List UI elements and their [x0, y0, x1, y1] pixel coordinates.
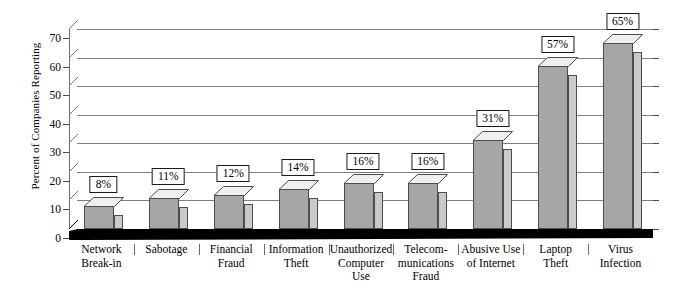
bar-front-face — [279, 189, 309, 229]
category-labels: NetworkBreak-inSabotageFinancialFraudInf… — [69, 243, 653, 291]
gridline-depth-edge-30 — [69, 134, 78, 143]
category-label-line: Virus — [588, 243, 653, 257]
bar-top-face — [408, 174, 438, 183]
y-tick-40 — [63, 124, 69, 125]
bar-front-face — [149, 198, 179, 229]
y-tick-right-40 — [653, 115, 659, 116]
category-label-line: of Internet — [458, 257, 523, 271]
category-label-line: Break-in — [69, 257, 134, 271]
category-label: VirusInfection — [588, 243, 653, 270]
category-label-line: Fraud — [393, 270, 458, 284]
bar-side-face — [438, 192, 447, 229]
category-label-line: Fraud — [199, 257, 264, 271]
bar-front-face — [344, 183, 374, 229]
gridline-depth-edge-60 — [69, 49, 78, 58]
y-tick-right-0 — [653, 229, 659, 230]
y-tick-right-70 — [653, 29, 659, 30]
category-label: Abusive Useof Internet — [458, 243, 523, 270]
bar-chart: Percent of Companies Reporting 706050403… — [0, 0, 683, 292]
gridline-depth-edge-20 — [69, 163, 78, 172]
y-tick-label-70: 70 — [50, 32, 62, 44]
category-label: FinancialFraud — [199, 243, 264, 270]
bar-value-label: 65% — [606, 13, 639, 30]
y-tick-50 — [63, 95, 69, 96]
bar-column — [84, 206, 114, 229]
bar-value-label: 14% — [282, 159, 315, 176]
bar-top-face — [84, 197, 114, 206]
category-label: LaptopTheft — [523, 243, 588, 270]
gridline-depth-edge-70 — [69, 20, 78, 29]
bar-side-face — [309, 198, 318, 229]
bar-value-label: 16% — [411, 153, 444, 170]
bar-front-face — [408, 183, 438, 229]
category-separator — [199, 244, 200, 255]
bar-column — [344, 183, 374, 229]
y-tick-label-60: 60 — [50, 61, 62, 73]
category-label-line: Laptop — [523, 243, 588, 257]
y-tick-10 — [63, 209, 69, 210]
y-tick-20 — [63, 181, 69, 182]
bar-side-face — [374, 192, 383, 229]
category-separator — [458, 244, 459, 255]
category-label-line: Sabotage — [134, 243, 199, 257]
category-label-line: Abusive Use — [458, 243, 523, 257]
bar-column — [149, 198, 179, 229]
bar-value-label: 57% — [541, 36, 574, 53]
bar-top-face — [473, 131, 503, 140]
category-label-line: Computer — [329, 257, 394, 271]
y-tick-label-0: 0 — [55, 232, 61, 244]
y-tick-label-50: 50 — [50, 89, 62, 101]
bar-front-face — [214, 195, 244, 229]
gridline-depth-edge-0 — [69, 220, 78, 229]
category-label: InformationTheft — [264, 243, 329, 270]
category-label-line: Use — [329, 270, 394, 284]
category-label-line: Theft — [264, 257, 329, 271]
category-label: Telecom-municationsFraud — [393, 243, 458, 284]
category-label-line: Infection — [588, 257, 653, 271]
bar-top-face — [344, 174, 374, 183]
category-label-line: Theft — [523, 257, 588, 271]
bar-top-face — [279, 180, 309, 189]
y-tick-right-20 — [653, 172, 659, 173]
bar-column — [279, 189, 309, 229]
plot-area: 706050403020100 8%11%12%14%16%16%31%57%6… — [69, 20, 653, 238]
bar-value-label: 8% — [90, 176, 117, 193]
bar-value-label: 16% — [346, 153, 379, 170]
y-tick-30 — [63, 152, 69, 153]
category-label-line: Network — [69, 243, 134, 257]
bar-top-face — [214, 186, 244, 195]
y-axis-title: Percent of Companies Reporting — [29, 11, 41, 221]
category-separator — [264, 244, 265, 255]
gridline-70 — [77, 29, 653, 30]
bar-column — [473, 140, 503, 229]
category-label-line: Information — [264, 243, 329, 257]
category-separator — [134, 244, 135, 255]
category-label: NetworkBreak-in — [69, 243, 134, 270]
bar-side-face — [244, 204, 253, 229]
bar-front-face — [84, 206, 114, 229]
bar-top-face — [538, 57, 568, 66]
gridline-depth-edge-40 — [69, 106, 78, 115]
bar-value-label: 31% — [476, 110, 509, 127]
y-tick-label-30: 30 — [50, 146, 62, 158]
category-label: UnauthorizedComputerUse — [329, 243, 394, 284]
bar-column — [538, 66, 568, 229]
chart-floor — [69, 229, 653, 240]
y-tick-label-20: 20 — [50, 175, 62, 187]
category-label-line: Financial — [199, 243, 264, 257]
bar-side-face — [503, 149, 512, 229]
bar-top-face — [603, 34, 633, 43]
gridline-depth-edge-50 — [69, 77, 78, 86]
category-label: Sabotage — [134, 243, 199, 257]
bar-side-face — [633, 52, 642, 229]
bar-side-face — [114, 215, 123, 229]
y-tick-right-50 — [653, 86, 659, 87]
category-separator — [523, 244, 524, 255]
bar-value-label: 11% — [152, 168, 185, 185]
y-tick-right-30 — [653, 143, 659, 144]
bar-front-face — [538, 66, 568, 229]
bar-column — [214, 195, 244, 229]
bar-front-face — [473, 140, 503, 229]
bar-column — [603, 43, 633, 229]
bar-front-face — [603, 43, 633, 229]
